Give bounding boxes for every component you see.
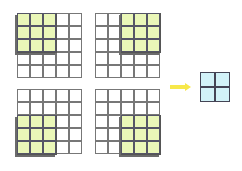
grid-cell <box>95 26 108 39</box>
grid-cell <box>108 65 121 78</box>
grid-cell <box>95 102 108 115</box>
grid-cell <box>69 13 82 26</box>
window-cell <box>121 13 134 26</box>
pooling-window <box>17 13 57 53</box>
output-cell <box>215 87 230 102</box>
window-cell <box>134 13 147 26</box>
window-cell <box>121 128 134 141</box>
grid-cell <box>95 65 108 78</box>
grid-cell <box>56 52 69 65</box>
window-cell <box>147 141 160 154</box>
input-grid-top-left <box>17 13 83 79</box>
window-cell <box>43 26 56 39</box>
window-cell <box>30 13 43 26</box>
grid-cell <box>30 89 43 102</box>
grid-cell <box>108 102 121 115</box>
window-cell <box>43 115 56 128</box>
arrow-head-icon <box>185 83 191 91</box>
grid-cell <box>69 89 82 102</box>
window-cell <box>30 115 43 128</box>
pooling-window <box>121 115 161 155</box>
window-cell <box>30 26 43 39</box>
grid-cell <box>95 13 108 26</box>
window-cell <box>134 26 147 39</box>
window-cell <box>121 141 134 154</box>
window-cell <box>121 26 134 39</box>
grid-cell <box>69 128 82 141</box>
input-grid-bottom-right <box>95 89 161 155</box>
window-cell <box>30 141 43 154</box>
window-cell <box>147 115 160 128</box>
grid-cell <box>56 65 69 78</box>
window-cell <box>43 141 56 154</box>
grid-cell <box>56 26 69 39</box>
window-cell <box>17 128 30 141</box>
grid-cell <box>134 65 147 78</box>
grid-cell <box>56 89 69 102</box>
window-cell <box>30 39 43 52</box>
grid-cell <box>17 89 30 102</box>
grid-cell <box>95 39 108 52</box>
grid-cell <box>95 89 108 102</box>
window-cell <box>134 141 147 154</box>
grid-cell <box>56 39 69 52</box>
grid-cell <box>56 141 69 154</box>
window-cell <box>43 39 56 52</box>
output-cell <box>200 72 215 87</box>
window-cell <box>121 115 134 128</box>
window-cell <box>121 39 134 52</box>
grid-cell <box>69 52 82 65</box>
window-cell <box>30 128 43 141</box>
grid-cell <box>69 115 82 128</box>
grid-cell <box>17 102 30 115</box>
grid-cell <box>69 65 82 78</box>
grid-cell <box>17 65 30 78</box>
pooling-window <box>17 115 57 155</box>
grid-cell <box>121 65 134 78</box>
window-cell <box>17 13 30 26</box>
output-cell <box>215 72 230 87</box>
window-cell <box>17 141 30 154</box>
grid-cell <box>30 65 43 78</box>
window-cell <box>134 128 147 141</box>
window-cell <box>43 13 56 26</box>
window-cell <box>147 39 160 52</box>
grid-cell <box>121 89 134 102</box>
window-cell <box>147 128 160 141</box>
grid-cell <box>95 115 108 128</box>
grid-cell <box>147 89 160 102</box>
window-cell <box>147 13 160 26</box>
grid-cell <box>56 115 69 128</box>
grid-cell <box>69 102 82 115</box>
grid-cell <box>69 39 82 52</box>
input-grid-bottom-left <box>17 89 83 155</box>
grid-cell <box>56 13 69 26</box>
grid-cell <box>134 102 147 115</box>
output-cell <box>200 87 215 102</box>
grid-cell <box>43 102 56 115</box>
grid-cell <box>134 89 147 102</box>
window-cell <box>17 26 30 39</box>
grid-cell <box>95 141 108 154</box>
grid-cell <box>147 102 160 115</box>
grid-cell <box>56 128 69 141</box>
grid-cell <box>95 52 108 65</box>
window-cell <box>17 39 30 52</box>
window-cell <box>17 115 30 128</box>
grid-cell <box>30 102 43 115</box>
window-cell <box>147 26 160 39</box>
window-cell <box>43 128 56 141</box>
grid-cell <box>56 102 69 115</box>
window-cell <box>134 39 147 52</box>
output-grid <box>200 72 230 102</box>
window-cell <box>134 115 147 128</box>
grid-cell <box>147 65 160 78</box>
input-grid-top-right <box>95 13 161 79</box>
pooling-window <box>121 13 161 53</box>
grid-cell <box>121 102 134 115</box>
arrow-icon <box>170 85 186 89</box>
grid-cell <box>108 89 121 102</box>
grid-cell <box>43 89 56 102</box>
grid-cell <box>69 26 82 39</box>
grid-cell <box>43 65 56 78</box>
